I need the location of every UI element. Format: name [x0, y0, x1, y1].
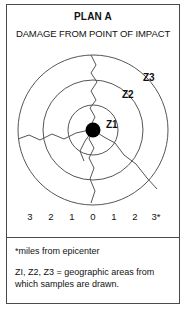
fault-line-west [18, 130, 93, 140]
distance-scale: 3 2 1 0 1 2 3* [7, 211, 179, 222]
footnote-block: *miles from epicenter ZI, Z2, Z3 = geogr… [7, 237, 179, 290]
fault-line-north [90, 55, 97, 130]
figure-panel: PLAN A DAMAGE FROM POINT OF IMPACT Z1 Z2… [6, 4, 180, 304]
zone-label-z2: Z2 [122, 89, 134, 100]
footnote-units: *miles from epicenter [15, 245, 171, 257]
scale-tick: 0 [86, 211, 100, 222]
fault-line-south [89, 130, 95, 203]
zone-label-z1: Z1 [106, 119, 118, 130]
scale-tick: 1 [107, 211, 121, 222]
fault-line-southeast [93, 130, 157, 189]
page-title: PLAN A [7, 11, 179, 22]
epicenter-dot [86, 123, 101, 138]
scale-tick: 2 [128, 211, 142, 222]
scale-tick: 3 [23, 211, 37, 222]
zone-label-z3: Z3 [143, 72, 155, 83]
figure-subtitle: DAMAGE FROM POINT OF IMPACT [7, 28, 179, 39]
scale-tick: 3* [149, 211, 163, 222]
damage-zone-diagram: Z1 Z2 Z3 [7, 51, 179, 209]
footnote-zone-legend: ZI, Z2, Z3 = geographic areas from which… [15, 266, 171, 290]
scale-tick: 2 [44, 211, 58, 222]
scale-tick: 1 [65, 211, 79, 222]
